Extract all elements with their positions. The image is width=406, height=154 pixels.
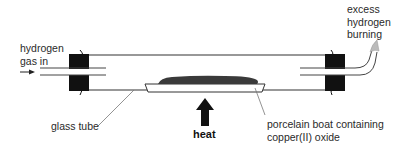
hydrogen-in-label: hydrogen gas in [20,42,64,67]
boat-line1: porcelain boat containing [267,118,384,131]
diagram-canvas: hydrogen gas in excess hydrogen burning … [0,0,406,154]
inlet-arrow-icon [20,70,35,75]
porcelain-boat [145,84,265,92]
flame-icon [370,40,379,52]
heat-label: heat [193,128,216,140]
glass-tube-label: glass tube [51,120,99,133]
left-stopper [69,50,89,95]
boat-line2: copper(II) oxide [267,131,384,144]
inlet-tube [40,68,106,75]
excess-line3: burning [347,28,391,41]
hydrogen-in-line1: hydrogen [20,42,64,55]
excess-hydrogen-label: excess hydrogen burning [347,3,391,41]
right-stopper [325,50,345,95]
leader-lines [98,88,265,126]
excess-line2: hydrogen [347,16,391,29]
excess-line1: excess [347,3,391,16]
copper-oxide [158,76,258,84]
heat-arrow-icon [196,98,214,126]
hydrogen-in-line2: gas in [20,55,64,68]
porcelain-boat-label: porcelain boat containing copper(II) oxi… [267,118,384,143]
